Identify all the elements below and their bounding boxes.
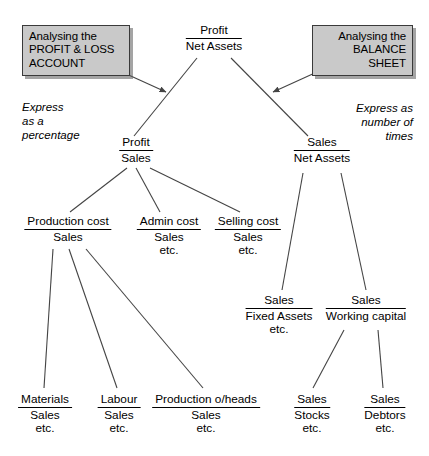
link-sales-net-assets-to-working-capital: [341, 173, 366, 290]
annotation-line: as a: [22, 114, 80, 128]
link-profit-net-assets-to-sales-net-assets: [231, 58, 308, 136]
callout-line: ACCOUNT: [29, 57, 123, 70]
callout-line: Analysing the: [319, 30, 406, 43]
node-denominator: Sales: [18, 408, 72, 422]
link-sales-net-assets-to-fixed-assets: [282, 173, 303, 290]
node-denominator: Working capital: [326, 309, 406, 323]
node-production-overheads-sales: Production o/heads Sales etc.: [152, 393, 260, 436]
node-etc: etc.: [294, 422, 330, 436]
node-etc: etc.: [98, 422, 141, 436]
node-numerator: Sales: [326, 294, 406, 309]
node-etc: etc.: [364, 422, 405, 436]
node-denominator: Sales: [119, 151, 153, 165]
callout-line: BALANCE: [319, 43, 406, 56]
annotation-line: number of: [331, 115, 413, 129]
callout-line: Analysing the: [29, 30, 123, 43]
node-denominator: Sales: [137, 230, 201, 244]
link-working-capital-to-stocks: [313, 330, 344, 388]
node-production-cost-sales: Production cost Sales: [24, 215, 111, 244]
node-etc: etc.: [137, 244, 201, 258]
node-numerator: Materials: [18, 393, 72, 408]
annotation-line: Express: [22, 100, 80, 114]
node-sales-net-assets: Sales Net Assets: [294, 136, 350, 165]
callout-line: PROFIT & LOSS: [29, 43, 123, 56]
node-numerator: Sales: [364, 393, 405, 408]
node-denominator: Sales: [24, 230, 111, 244]
annotation-line: Express as: [331, 101, 413, 115]
link-working-capital-to-debtors: [378, 330, 383, 388]
node-etc: etc.: [215, 244, 281, 258]
node-denominator: Net Assets: [294, 151, 350, 165]
link-profit-sales-to-production-cost: [70, 168, 127, 212]
node-numerator: Production o/heads: [152, 393, 260, 408]
node-etc: etc.: [152, 422, 260, 436]
callout-profit-loss-account: Analysing the PROFIT & LOSS ACCOUNT: [22, 25, 130, 76]
node-denominator: Stocks: [294, 408, 330, 422]
node-numerator: Selling cost: [215, 215, 281, 230]
node-profit-sales: Profit Sales: [119, 136, 153, 165]
node-sales-stocks: Sales Stocks etc.: [294, 393, 330, 436]
node-sales-fixed-assets: Sales Fixed Assets etc.: [246, 294, 313, 337]
arrow-balance-sheet-to-branch: [273, 72, 317, 92]
node-labour-sales: Labour Sales etc.: [98, 393, 141, 436]
node-numerator: Labour: [98, 393, 141, 408]
link-production-cost-to-materials: [44, 249, 53, 388]
link-profit-sales-to-selling-cost: [150, 168, 240, 212]
link-production-cost-to-labour: [69, 249, 117, 388]
node-numerator: Sales: [246, 294, 313, 309]
node-profit-net-assets: Profit Net Assets: [186, 24, 242, 53]
node-denominator: Net Assets: [186, 39, 242, 53]
node-sales-working-capital: Sales Working capital: [326, 294, 406, 323]
node-selling-cost-sales: Selling cost Sales etc.: [215, 215, 281, 258]
annotation-express-as-percentage: Express as a percentage: [22, 100, 80, 142]
node-numerator: Profit: [119, 136, 153, 151]
node-etc: etc.: [246, 323, 313, 337]
callout-balance-sheet: Analysing the BALANCE SHEET: [312, 25, 413, 76]
link-profit-net-assets-to-profit-sales: [134, 58, 197, 136]
node-denominator: Sales: [152, 408, 260, 422]
link-profit-sales-to-admin-cost: [136, 168, 160, 212]
node-numerator: Admin cost: [137, 215, 201, 230]
node-numerator: Sales: [294, 393, 330, 408]
node-denominator: Sales: [98, 408, 141, 422]
node-denominator: Sales: [215, 230, 281, 244]
node-etc: etc.: [18, 422, 72, 436]
node-materials-sales: Materials Sales etc.: [18, 393, 72, 436]
ratio-analysis-diagram: Analysing the PROFIT & LOSS ACCOUNT Anal…: [0, 0, 429, 456]
link-production-cost-to-production-overheads: [86, 249, 203, 388]
node-admin-cost-sales: Admin cost Sales etc.: [137, 215, 201, 258]
node-numerator: Production cost: [24, 215, 111, 230]
node-denominator: Fixed Assets: [246, 309, 313, 323]
node-denominator: Debtors: [364, 408, 405, 422]
node-numerator: Sales: [294, 136, 350, 151]
callout-line: SHEET: [319, 57, 406, 70]
node-sales-debtors: Sales Debtors etc.: [364, 393, 405, 436]
annotation-line: percentage: [22, 128, 80, 142]
node-numerator: Profit: [186, 24, 242, 39]
